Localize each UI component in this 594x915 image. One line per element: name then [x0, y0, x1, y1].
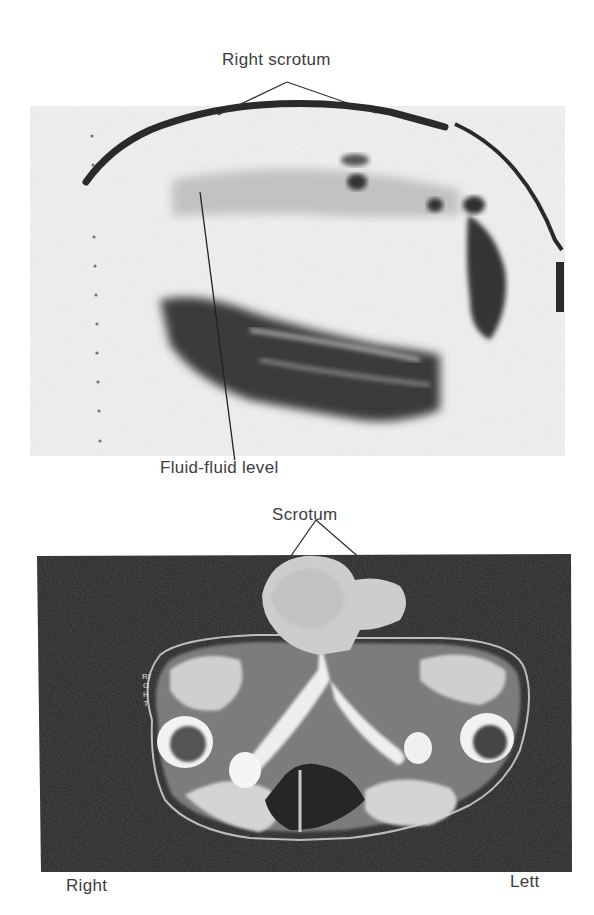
ct-scan-image [0, 520, 594, 880]
left-orientation-label: Lett [510, 872, 540, 892]
sonogram-image [0, 0, 594, 460]
fluid-fluid-level-label: Fluid-fluid level [160, 458, 278, 478]
right-orientation-label: Right [66, 876, 107, 896]
ct-right-side-marker: RIGHT [141, 672, 151, 708]
